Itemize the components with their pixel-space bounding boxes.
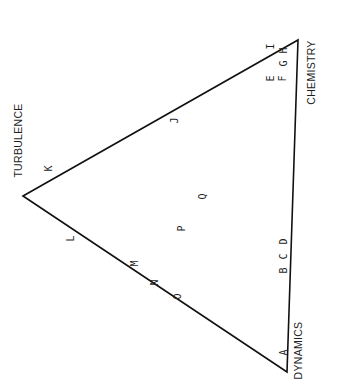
- point-label-f: F: [277, 75, 288, 81]
- point-label-k: K: [43, 165, 54, 171]
- point-label-o: O: [172, 293, 183, 299]
- point-label-a: A: [278, 349, 289, 355]
- point-label-q: Q: [197, 193, 208, 199]
- point-label-d: D: [278, 238, 289, 244]
- point-label-c: C: [278, 253, 289, 259]
- vertex-label-dynamics: DYNAMICS: [293, 321, 304, 379]
- point-label-j: J: [169, 117, 180, 123]
- point-label-m: M: [129, 260, 140, 266]
- point-label-n: N: [149, 279, 160, 285]
- vertex-label-turbulence: TURBULENCE: [13, 103, 24, 177]
- point-label-i: I: [265, 43, 276, 49]
- triangle-outline: [23, 40, 298, 372]
- point-label-p: P: [176, 225, 187, 231]
- vertex-label-chemistry: CHEMISTRY: [306, 40, 317, 104]
- ternary-diagram: TURBULENCE CHEMISTRY DYNAMICS ABCDEFGHIJ…: [0, 0, 337, 390]
- triangle-frame: [0, 0, 337, 390]
- point-label-h: H: [278, 47, 289, 53]
- point-label-b: B: [278, 267, 289, 273]
- point-label-g: G: [278, 60, 289, 66]
- point-label-e: E: [265, 75, 276, 81]
- point-label-l: L: [65, 235, 76, 241]
